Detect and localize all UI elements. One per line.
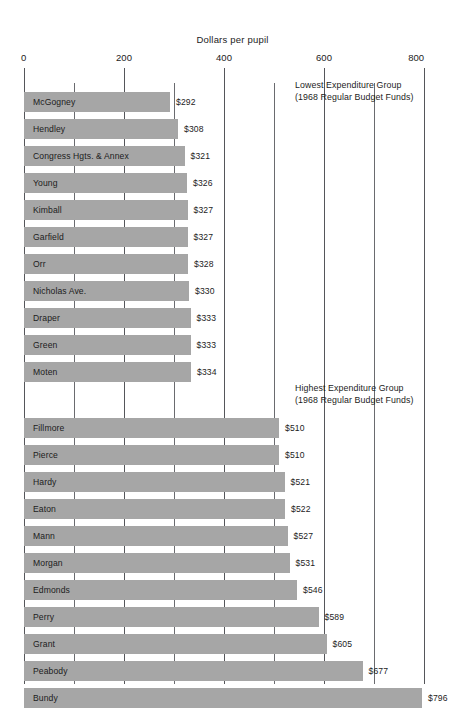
bar-category-label: Green xyxy=(33,335,57,355)
bar-category-label: Garfield xyxy=(33,227,64,247)
bar-category-label: Grant xyxy=(33,634,55,654)
x-axis-tick-label-800: 800 xyxy=(408,52,424,63)
bar[interactable] xyxy=(24,499,285,519)
bar-value-label: $531 xyxy=(296,553,316,573)
bar-category-label: Draper xyxy=(33,308,60,328)
bar-value-label: $510 xyxy=(285,445,305,465)
bar-value-label: $327 xyxy=(194,200,214,220)
bar-value-label: $605 xyxy=(333,634,353,654)
highest-group-annotation-line1: Highest Expenditure Group xyxy=(295,383,414,395)
bar-row[interactable]: Pierce$510 xyxy=(24,445,424,465)
bar-category-label: Orr xyxy=(33,254,46,274)
bar-value-label: $546 xyxy=(303,580,323,600)
bar-row[interactable]: Kimball$327 xyxy=(24,200,424,220)
bar-row[interactable]: Nicholas Ave.$330 xyxy=(24,281,424,301)
bar-row[interactable]: Green$333 xyxy=(24,335,424,355)
bar-row[interactable]: Morgan$531 xyxy=(24,553,424,573)
bar-category-label: Edmonds xyxy=(33,580,70,600)
bar-value-label: $677 xyxy=(369,661,389,681)
bar-value-label: $333 xyxy=(197,308,217,328)
bar-value-label: $292 xyxy=(176,92,196,112)
bar-value-label: $308 xyxy=(184,119,204,139)
bar-category-label: Congress Hgts. & Annex xyxy=(33,146,129,166)
bar[interactable] xyxy=(24,445,279,465)
bar-row[interactable]: Draper$333 xyxy=(24,308,424,328)
bar-row[interactable]: Young$326 xyxy=(24,173,424,193)
bar-category-label: Peabody xyxy=(33,661,68,681)
bar-category-label: McGogney xyxy=(33,92,75,112)
lowest-group-annotation: Lowest Expenditure Group (1968 Regular B… xyxy=(295,80,414,103)
bar-category-label: Morgan xyxy=(33,553,63,573)
bar-category-label: Eaton xyxy=(33,499,56,519)
lowest-group-annotation-line1: Lowest Expenditure Group xyxy=(295,80,414,92)
bar-value-label: $330 xyxy=(195,281,215,301)
bar-category-label: Nicholas Ave. xyxy=(33,281,86,301)
bar-row[interactable]: Eaton$522 xyxy=(24,499,424,519)
bar-category-label: Hendley xyxy=(33,119,65,139)
bar-category-label: Fillmore xyxy=(33,418,64,438)
plot-area: 0200400600800McGogney$292Hendley$308Cong… xyxy=(0,0,465,710)
bar-category-label: Young xyxy=(33,173,58,193)
x-axis-tick-label-400: 400 xyxy=(216,52,232,63)
bar-value-label: $333 xyxy=(197,335,217,355)
bar-value-label: $326 xyxy=(193,173,213,193)
bar-value-label: $527 xyxy=(294,526,314,546)
gridline-800 xyxy=(424,68,425,684)
bar[interactable] xyxy=(24,688,422,708)
bar-category-label: Pierce xyxy=(33,445,58,465)
bar-row[interactable]: Bundy$796 xyxy=(24,688,424,708)
bar[interactable] xyxy=(24,526,288,546)
bar-category-label: Hardy xyxy=(33,472,56,492)
bar[interactable] xyxy=(24,254,188,274)
bar-row[interactable]: Moten$334 xyxy=(24,362,424,382)
bar-row[interactable]: Hendley$308 xyxy=(24,119,424,139)
bar-value-label: $510 xyxy=(285,418,305,438)
bar-chart: Dollars per pupil 0200400600800McGogney$… xyxy=(0,0,465,710)
bar-value-label: $589 xyxy=(325,607,345,627)
highest-group-annotation-line2: (1968 Regular Budget Funds) xyxy=(295,395,414,407)
bar-category-label: Mann xyxy=(33,526,55,546)
bar-row[interactable]: Garfield$327 xyxy=(24,227,424,247)
bar-value-label: $327 xyxy=(194,227,214,247)
bar-row[interactable]: Peabody$677 xyxy=(24,661,424,681)
bar-value-label: $321 xyxy=(191,146,211,166)
bar-value-label: $796 xyxy=(428,688,448,708)
lowest-group-annotation-line2: (1968 Regular Budget Funds) xyxy=(295,92,414,104)
bar[interactable] xyxy=(24,472,285,492)
bar-category-label: Kimball xyxy=(33,200,62,220)
bar-value-label: $334 xyxy=(197,362,217,382)
bar-category-label: Bundy xyxy=(33,688,58,708)
bar-row[interactable]: Mann$527 xyxy=(24,526,424,546)
bar-row[interactable]: Congress Hgts. & Annex$321 xyxy=(24,146,424,166)
x-axis-tick-label-200: 200 xyxy=(116,52,132,63)
bar-value-label: $521 xyxy=(291,472,311,492)
bar-row[interactable]: Orr$328 xyxy=(24,254,424,274)
bar-row[interactable]: Fillmore$510 xyxy=(24,418,424,438)
bar[interactable] xyxy=(24,634,327,654)
bar-row[interactable]: Perry$589 xyxy=(24,607,424,627)
highest-group-annotation: Highest Expenditure Group (1968 Regular … xyxy=(295,383,414,406)
bar[interactable] xyxy=(24,661,363,681)
bar-value-label: $328 xyxy=(194,254,214,274)
x-axis-tick-label-600: 600 xyxy=(316,52,332,63)
bar[interactable] xyxy=(24,607,319,627)
bar[interactable] xyxy=(24,553,290,573)
bar-row[interactable]: Hardy$521 xyxy=(24,472,424,492)
bar-category-label: Perry xyxy=(33,607,54,627)
bar-row[interactable]: Grant$605 xyxy=(24,634,424,654)
bar-category-label: Moten xyxy=(33,362,57,382)
bar-value-label: $522 xyxy=(291,499,311,519)
bar-row[interactable]: Edmonds$546 xyxy=(24,580,424,600)
x-axis-tick-label-0: 0 xyxy=(21,52,26,63)
